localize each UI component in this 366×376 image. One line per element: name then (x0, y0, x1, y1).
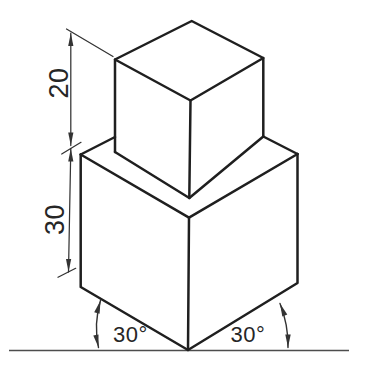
drawing-page: 20 30 30° 30° (0, 0, 366, 376)
arc-arrow-down-icon (93, 335, 98, 348)
dimension-30-label: 30 (40, 204, 70, 235)
dimension-20: 20 (44, 29, 114, 154)
lower-cube-front-vertical-edge (188, 218, 189, 350)
dimension-20-label: 20 (44, 67, 74, 98)
angle-left: 30° (93, 301, 148, 348)
arrow-down-icon (68, 133, 73, 146)
arc-arrow-down-icon (285, 335, 290, 348)
upper-cube-front-vertical-edge (189, 101, 190, 199)
angle-right: 30° (231, 304, 291, 348)
arrow-down-icon (66, 259, 71, 272)
arc-arrow-up-icon (94, 301, 100, 314)
angle-left-label: 30° (113, 322, 148, 347)
upper-cube-top-front-edges (115, 58, 263, 101)
isometric-drawing: 20 30 30° 30° (0, 0, 366, 376)
angle-right-label: 30° (231, 322, 266, 347)
upper-cube (115, 21, 263, 198)
dimension-30: 30 (40, 149, 76, 278)
lower-cube-top-back-right-edge (263, 137, 297, 155)
extension-line (67, 29, 114, 57)
arc-arrow-up-icon (280, 304, 287, 317)
lower-cube-top-back-left-edge (81, 137, 115, 155)
arrow-up-icon (68, 33, 73, 46)
extension-tick (58, 268, 76, 277)
arrow-up-icon (68, 149, 73, 162)
